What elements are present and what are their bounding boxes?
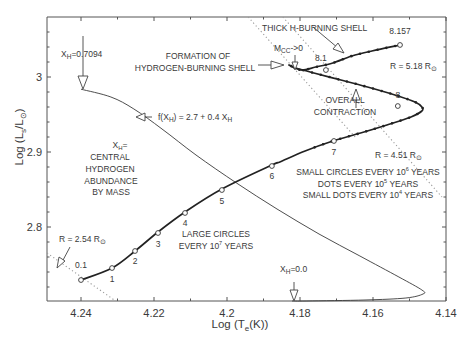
large-circle-marker <box>183 211 188 216</box>
track-dot <box>307 68 310 71</box>
x-tick-label: 4.14 <box>435 307 456 319</box>
track-dot <box>324 64 327 67</box>
track-dot <box>406 98 409 101</box>
r451-label: R = 4.51 R⊙ <box>375 150 422 161</box>
track-dot <box>365 130 368 133</box>
arrow-xh-end-icon <box>290 290 298 301</box>
track-dot <box>350 55 353 58</box>
x-tick-label: 4.16 <box>362 307 383 319</box>
track-dot <box>380 90 383 93</box>
track-dot <box>328 76 331 79</box>
xh-def-3: HYDROGEN <box>85 164 134 174</box>
track-dot <box>416 113 419 116</box>
arrow-thick-shell-icon <box>333 43 344 53</box>
small-dots-label: SMALL DOTS EVERY 104 YEARS <box>303 189 434 200</box>
circle-age-label: 0.1 <box>75 260 87 270</box>
x-tick-label: 4.24 <box>70 307 91 319</box>
circle-age-label: 8.157 <box>389 26 411 36</box>
x-tick-label: 4.18 <box>289 307 310 319</box>
large-circle-marker <box>398 43 403 48</box>
large-circle-marker <box>332 139 337 144</box>
large-circle-marker <box>269 164 274 169</box>
track-dot <box>342 58 345 61</box>
track-dot <box>359 52 362 55</box>
circle-age-label: 8.1 <box>315 53 327 63</box>
circle-age-label: 1 <box>110 274 115 284</box>
large-circle-marker <box>219 188 224 193</box>
large-circle-marker <box>110 266 115 271</box>
large-circle-marker <box>79 278 84 283</box>
xh-def-1: XH= <box>113 140 128 151</box>
track-dot <box>356 133 359 136</box>
track-dot <box>421 107 424 110</box>
track-dot <box>302 69 305 72</box>
track-dot <box>354 83 357 86</box>
arrow-fxh-icon <box>136 113 145 121</box>
formation-label-2: HYDROGEN-BURNING SHELL <box>135 63 256 73</box>
r254-label: R = 2.54 R⊙ <box>59 234 106 245</box>
track-dot <box>367 50 370 53</box>
hr-diagram-chart: 4.244.224.24.184.164.142.82.93 0.1123456… <box>0 0 466 345</box>
y-tick-label: 3 <box>36 71 42 83</box>
circle-age-label: 8 <box>395 90 400 100</box>
track-dot <box>414 101 417 104</box>
xh-end-label: XH=0.0 <box>280 264 307 275</box>
track-dot <box>316 65 319 68</box>
x-tick-label: 4.22 <box>143 307 164 319</box>
track-dot <box>339 137 342 140</box>
track-dot <box>348 135 351 138</box>
overall-label-1: OVERALL <box>325 95 364 105</box>
circle-age-label: 2 <box>133 256 138 266</box>
formation-label-1: FORMATION OF <box>166 51 231 61</box>
track-dot <box>322 143 325 146</box>
track-dot <box>382 125 385 128</box>
xh-def-2: CENTRAL <box>90 152 130 162</box>
y-tick-label: 2.8 <box>27 221 42 233</box>
track-dot <box>319 74 322 77</box>
track-dot <box>311 71 314 74</box>
thick-shell-label: THICK H-BURNING SHELL <box>262 23 368 33</box>
circle-age-label: 4 <box>183 218 188 228</box>
y-tick-label: 2.9 <box>27 146 42 158</box>
track-dot <box>290 65 293 68</box>
track-dot <box>313 146 316 149</box>
xh-def-5: BY MASS <box>92 187 130 197</box>
r518-label: R = 5.18 R⊙ <box>390 61 437 72</box>
annotations: XH=0.7094 FORMATION OF HYDROGEN-BURNING … <box>59 23 440 275</box>
track-dot <box>333 61 336 64</box>
track-dot <box>376 48 379 51</box>
overall-label-2: CONTRACTION <box>314 107 376 117</box>
x-axis-label: Log (Te(K)) <box>212 318 269 333</box>
large-circle-marker <box>156 231 161 236</box>
track-dot <box>408 116 411 119</box>
dots-label: DOTS EVERY 105 YEARS <box>318 178 419 189</box>
large-circle-marker <box>395 104 400 109</box>
radius-line <box>248 17 355 137</box>
track-dot <box>391 122 394 125</box>
arrow-xh-start-icon <box>78 76 88 89</box>
xh-start-label: XH=0.7094 <box>61 49 103 60</box>
track-dot <box>372 87 375 90</box>
arrow-formation-icon <box>271 61 284 69</box>
track-dot <box>389 92 392 95</box>
xh-def-4: ABUNDANCE <box>84 176 138 186</box>
circle-age-label: 6 <box>270 171 275 181</box>
fxh-label: f(XH) = 2.7 + 0.4 XH <box>158 112 232 123</box>
track-dot <box>363 85 366 88</box>
large-circles-2: EVERY 107 YEARS <box>179 240 254 251</box>
mcc-label: MCC->0 <box>274 43 303 54</box>
large-circle-marker <box>324 68 329 73</box>
circle-age-label: 5 <box>220 196 225 206</box>
track-dot <box>385 47 388 50</box>
large-circles-1: LARGE CIRCLES <box>182 229 250 239</box>
large-circle-marker <box>133 249 138 254</box>
circle-age-label: 3 <box>156 239 161 249</box>
track-dot <box>394 45 397 48</box>
track-dot <box>374 127 377 130</box>
track-dot <box>298 68 301 71</box>
track-dot <box>337 78 340 81</box>
small-circles-label: SMALL CIRCLES EVERY 106 YEARS <box>296 166 440 177</box>
circle-age-label: 7 <box>332 147 337 157</box>
track-dot <box>399 119 402 122</box>
track-dot <box>346 80 349 83</box>
